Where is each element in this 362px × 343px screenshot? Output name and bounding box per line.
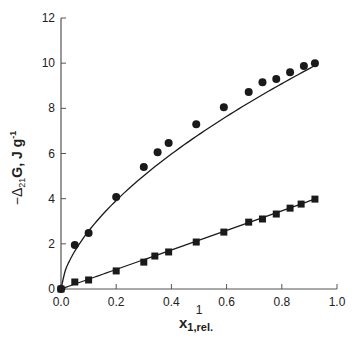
circle-marker [286,68,294,76]
y-axis-title: −Δ21G, J g-1 [8,131,27,205]
square-marker [85,276,92,283]
square-marker [151,253,158,260]
circle-marker [311,59,319,67]
square-marker [71,278,78,285]
circle-marker [258,78,266,86]
circle-marker [140,163,148,171]
square-marker [287,205,294,212]
square-marker [58,286,65,293]
circle-marker [300,62,308,70]
x-tick-label: 0.2 [108,295,125,309]
x-axis-stray-label: 1 [196,303,203,317]
fit-curves [61,66,315,289]
square-marker [298,201,305,208]
data-markers [57,59,319,293]
x-tick-label: 0.4 [163,295,180,309]
x-tick-label: 0.0 [53,295,70,309]
circle-marker [71,241,79,249]
circles-fit-curve [61,66,315,289]
chart: 0246810120.00.20.40.60.81.0x1,rel.1−Δ21G… [0,0,362,343]
square-marker [220,229,227,236]
circle-marker [85,229,93,237]
square-marker [311,196,318,203]
square-marker [273,211,280,218]
y-tick-label: 12 [42,11,56,25]
y-tick-label: 2 [48,237,55,251]
square-marker [193,239,200,246]
square-marker [259,215,266,222]
circle-marker [245,88,253,96]
y-tick-label: 10 [42,56,56,70]
circle-marker [165,139,173,147]
y-tick-label: 8 [48,101,55,115]
circle-marker [154,148,162,156]
circle-marker [220,103,228,111]
x-tick-label: 0.8 [273,295,290,309]
axes [61,18,337,289]
y-tick-label: 4 [48,192,55,206]
y-tick-label: 6 [48,147,55,161]
square-marker [165,248,172,255]
x-tick-label: 1.0 [329,295,346,309]
square-marker [140,259,147,266]
circle-marker [272,75,280,83]
square-marker [245,219,252,226]
axis-labels: 0246810120.00.20.40.60.81.0x1,rel.1−Δ21G… [8,11,346,333]
circle-marker [112,193,120,201]
square-marker [113,267,120,274]
x-tick-label: 0.6 [218,295,235,309]
y-tick-label: 0 [48,282,55,296]
circle-marker [192,120,200,128]
